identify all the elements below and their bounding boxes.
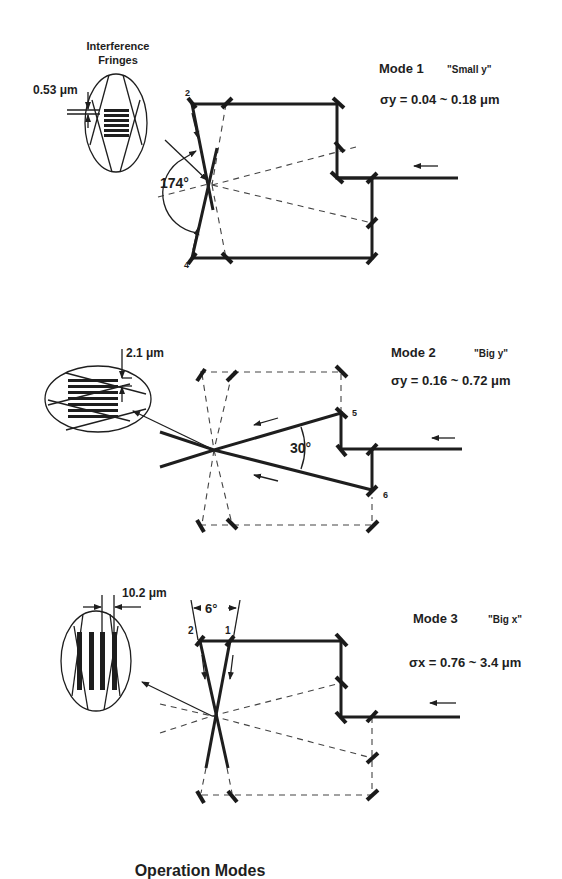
mode-3-nickname: "Big x" xyxy=(488,614,522,625)
mode-1-name: Mode 1 xyxy=(379,61,424,76)
mode-2-crossing-angle: 30° xyxy=(290,440,311,456)
mode-1-nickname: "Small y" xyxy=(447,64,492,75)
mode-2-name: Mode 2 xyxy=(391,345,436,360)
mirror-icon xyxy=(227,371,237,381)
mirror-label: 2 xyxy=(185,88,190,98)
mode-2-fringe-inset xyxy=(45,349,151,432)
mirror-label: 2 xyxy=(188,625,194,636)
mode-1-inset-title-1: Interference xyxy=(87,40,150,52)
figure-title: Operation Modes xyxy=(135,862,266,879)
mode-3-sigma: σx = 0.76 ~ 3.4 μm xyxy=(409,655,521,670)
mode-1-panel: Interference Fringes 0.53 μm 2 4 17 xyxy=(33,40,499,270)
mirror-icon xyxy=(367,521,378,532)
mode-3-crossing-angle: 6° xyxy=(205,601,217,616)
mode-1-crossing-angle: 174° xyxy=(160,175,189,191)
mirror-icon xyxy=(228,791,237,802)
operation-modes-diagram: Interference Fringes 0.53 μm 2 4 17 xyxy=(0,0,562,879)
mode-3-fringe-spacing: 10.2 μm xyxy=(122,586,167,600)
mode-2-fringe-spacing: 2.1 μm xyxy=(126,346,164,360)
mirror-icon xyxy=(227,519,237,529)
mode-2-sigma: σy = 0.16 ~ 0.72 μm xyxy=(391,373,510,388)
mode-1-fringe-inset xyxy=(67,74,147,172)
mode-1-fringe-spacing: 0.53 μm xyxy=(33,83,78,97)
mode-3-fringe-inset xyxy=(61,595,141,711)
mirror-label: 1 xyxy=(225,625,231,636)
mirror-label: 5 xyxy=(352,408,357,418)
mode-3-name: Mode 3 xyxy=(413,611,458,626)
mirror-icon xyxy=(197,520,204,532)
mirror-label: 6 xyxy=(383,490,388,500)
mirror-label: 4 xyxy=(184,260,189,270)
mode-1-inset-title-2: Fringes xyxy=(98,54,138,66)
mode-1-fringes xyxy=(104,109,129,137)
mode-2-nickname: "Big y" xyxy=(474,348,508,359)
mode-3-panel: 10.2 μm 6° 2 1 Mo xyxy=(61,586,522,803)
mirror-icon xyxy=(197,369,205,381)
mode-1-sigma: σy = 0.04 ~ 0.18 μm xyxy=(380,92,499,107)
mode-2-panel: 2.1 μm 5 6 30° Mode 2 "Big y" σy = 0.16 xyxy=(45,345,510,532)
